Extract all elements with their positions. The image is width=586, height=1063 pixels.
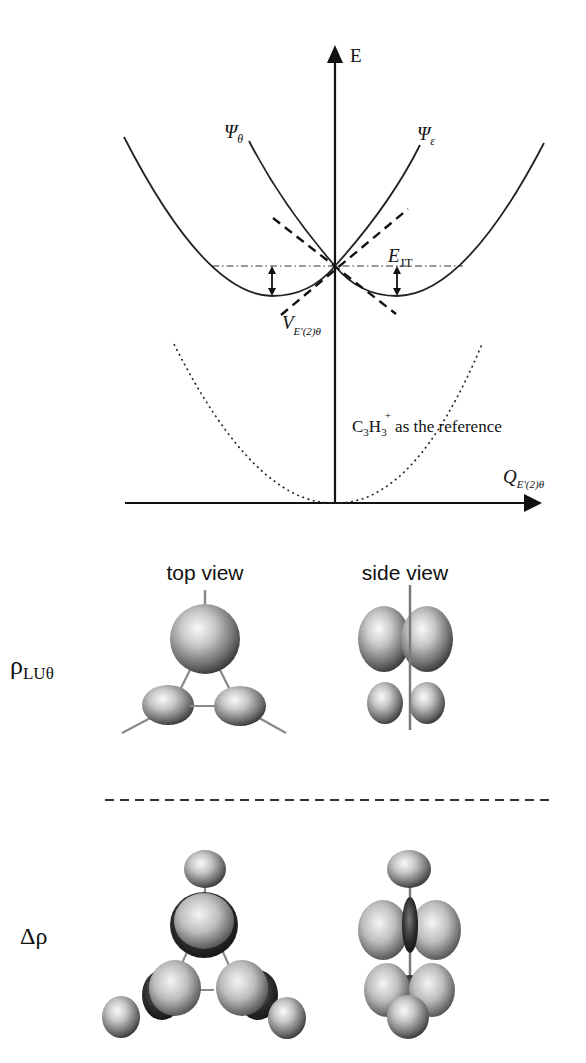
psi-theta-label: Ψθ [224,121,243,146]
energy-axis-arrow-icon [327,45,343,63]
energy-axis-label: E [350,45,362,66]
energy-plot: E Ψθ Ψε EJT VE'(2)θ C3H3+ as the referen… [124,45,545,512]
jt-energy-arrow-right [393,266,401,296]
density-difference-top-view-image [102,850,306,1039]
q-axis-label: QE'(2)θ [503,466,545,491]
lower-sheet-left-curve [124,137,335,296]
q-axis-arrow-icon [524,494,542,512]
density-difference-side-view-image [358,850,461,1039]
vibronic-coupling-label: VE'(2)θ [282,312,322,338]
orbital-panel: top view side view ρLUθ Δρ [10,561,555,1039]
psi-epsilon-curve [335,145,420,266]
psi-theta-curve [249,141,335,266]
lower-sheet-right-curve [335,143,544,296]
reference-label: C3H3+ as the reference [352,409,502,438]
row-label-lumo-density: ρLUθ [10,651,54,683]
lumo-top-view-image [122,590,286,733]
lumo-side-view-image [358,585,453,730]
row-label-density-difference: Δρ [20,923,47,949]
psi-epsilon-label: Ψε [417,123,435,148]
column-header-top-view: top view [166,561,244,584]
jt-energy-arrow-left [268,266,276,296]
column-header-side-view: side view [362,561,449,584]
jahn-teller-figure: E Ψθ Ψε EJT VE'(2)θ C3H3+ as the referen… [0,0,586,1063]
